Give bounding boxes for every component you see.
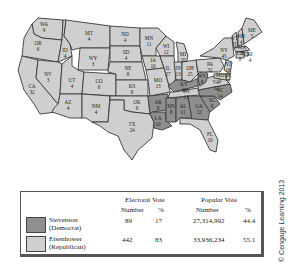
state-electoral-votes: 8: [157, 105, 160, 111]
legend-table: Electoral Vote Popular Vote Number % Num…: [20, 191, 264, 257]
state-electoral-votes: 9: [219, 78, 222, 84]
state-electoral-votes: 4: [124, 37, 127, 43]
state-electoral-votes: 6: [127, 71, 130, 77]
state-electoral-votes: 32: [207, 67, 213, 73]
state-electoral-votes: 3: [92, 61, 95, 67]
state-electoral-votes: 8: [170, 109, 173, 115]
state-electoral-votes: 8: [211, 103, 214, 109]
state-electoral-votes: 8: [131, 89, 134, 95]
state-electoral-votes: 4: [95, 109, 98, 115]
state-electoral-votes: 24: [129, 127, 135, 133]
state-electoral-votes: 4: [88, 36, 91, 42]
state-electoral-votes: 4: [125, 55, 128, 61]
eisenhower-swatch: [26, 236, 46, 252]
state-electoral-votes: 14: [217, 93, 223, 99]
state-electoral-votes: 8: [201, 79, 204, 85]
state-electoral-votes: 32: [29, 89, 35, 95]
state-electoral-votes: 11: [181, 109, 186, 115]
state-electoral-votes: 10: [207, 137, 213, 143]
candidate-party: (Democrat): [49, 224, 81, 232]
state-electoral-votes: 6: [37, 46, 40, 52]
state-electoral-votes: 13: [175, 71, 181, 77]
state-electoral-votes: 9: [43, 27, 46, 33]
state-electoral-votes: 10: [155, 121, 161, 127]
state-ny: [200, 38, 234, 60]
state-electoral-votes: 6: [98, 84, 101, 90]
header-popular-number: Number: [196, 206, 219, 214]
state-electoral-votes: 27: [165, 71, 171, 77]
header-popular-vote: Popular Vote: [201, 196, 237, 204]
us-electoral-map: WA9OR6CA32ID4NV3MT4WY3UT4AZ4CO6NM4ND4SD4…: [0, 0, 296, 190]
state-electoral-votes: 8: [136, 105, 139, 111]
state-electoral-votes: 11: [147, 41, 152, 47]
state-electoral-votes: 12: [163, 49, 169, 55]
state-electoral-votes: 3: [227, 78, 230, 84]
stevenson-swatch: [26, 217, 46, 233]
popular-percent: 55.1: [243, 236, 255, 244]
header-popular-percent: %: [245, 206, 251, 214]
electoral-number: 442: [122, 236, 133, 244]
state-electoral-votes: 13: [155, 83, 161, 89]
popular-number: 27,314,992: [193, 217, 225, 225]
state-electoral-votes: 4: [249, 57, 252, 63]
copyright-credit: © Cengage Learning 2013: [278, 180, 285, 262]
candidate-name: Eisenhower: [49, 235, 82, 243]
state-electoral-votes: 10: [150, 63, 156, 69]
state-electoral-votes: 3: [47, 77, 50, 83]
popular-number: 33,936,234: [193, 236, 225, 244]
state-electoral-votes: 45: [221, 53, 227, 59]
state-electoral-votes: 20: [180, 57, 186, 63]
electoral-number: 89: [125, 217, 132, 225]
popular-percent: 44.4: [243, 217, 255, 225]
state-electoral-votes: 12: [213, 85, 219, 91]
candidate-party: (Republican): [49, 243, 86, 251]
state-electoral-votes: 8: [239, 56, 242, 62]
state-electoral-votes: 3: [234, 41, 237, 47]
state-electoral-votes: 5: [251, 33, 254, 39]
candidate-name: Stevenson: [49, 216, 78, 224]
state-electoral-votes: 25: [187, 71, 193, 77]
state-electoral-votes: 11: [184, 94, 189, 100]
header-electoral-percent: %: [158, 206, 164, 214]
electoral-percent: 17: [155, 217, 162, 225]
header-electoral-vote: Electoral Vote: [125, 196, 165, 204]
electoral-percent: 83: [155, 236, 162, 244]
header-electoral-number: Number: [121, 206, 144, 214]
state-electoral-votes: 4: [71, 83, 74, 89]
state-electoral-votes: 12: [196, 109, 202, 115]
state-electoral-votes: 4: [67, 105, 70, 111]
state-electoral-votes: 4: [64, 53, 67, 59]
